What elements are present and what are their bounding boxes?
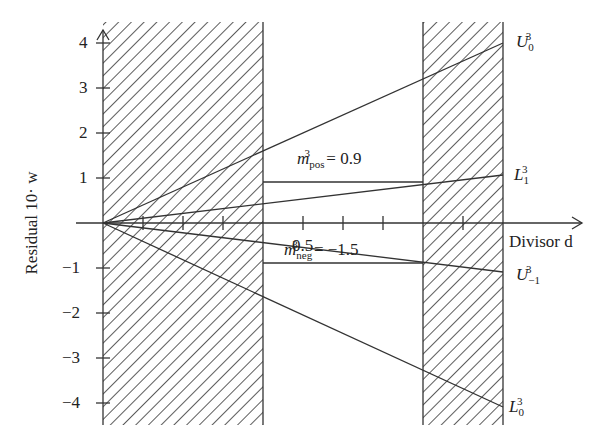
- annotation-m-neg: mneg3 = −1.5: [284, 233, 359, 258]
- y-tick-label: −2: [62, 304, 80, 321]
- x-axis-label: Divisor d: [509, 233, 573, 250]
- y-tick-label: −1: [62, 259, 80, 276]
- series-label-U-1: U−13: [516, 266, 532, 283]
- y-tick-label: −3: [62, 349, 80, 366]
- series-label-L0: L03: [509, 398, 522, 415]
- y-tick-label: 1: [79, 169, 88, 186]
- y-axis-label: Residual 10· w: [22, 172, 42, 275]
- annotation-m-pos: mpos3 = 0.9: [297, 150, 361, 167]
- y-tick-label: 4: [79, 34, 88, 51]
- y-tick-label: −4: [62, 394, 80, 411]
- series-label-U0: U03: [516, 33, 531, 50]
- y-tick-label: 2: [79, 124, 88, 141]
- chart-canvas: [0, 0, 603, 447]
- series-label-L1: L13: [514, 166, 527, 183]
- y-tick-label: 3: [79, 79, 88, 96]
